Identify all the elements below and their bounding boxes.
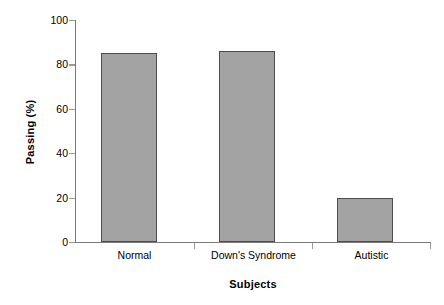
y-axis-line bbox=[75, 20, 76, 242]
x-axis-title: Subjects bbox=[75, 278, 431, 290]
y-tick-mark bbox=[69, 64, 75, 65]
y-tick-label: 20 bbox=[34, 193, 68, 203]
x-tick-label-autistic: Autistic bbox=[312, 249, 431, 261]
bar-chart: Passing (%) 100 80 60 40 20 0 Normal Dow… bbox=[0, 0, 444, 305]
y-tick-mark bbox=[69, 153, 75, 154]
y-tick-label: 40 bbox=[34, 148, 68, 158]
y-tick-label: 80 bbox=[34, 59, 68, 69]
y-tick-label: 0 bbox=[34, 237, 68, 247]
x-axis-line bbox=[75, 242, 431, 243]
bar-normal bbox=[101, 53, 157, 242]
x-tick-label-normal: Normal bbox=[75, 249, 194, 261]
y-axis-tick-labels: 100 80 60 40 20 0 bbox=[28, 0, 68, 305]
y-tick-mark bbox=[69, 198, 75, 199]
y-tick-mark bbox=[69, 20, 75, 21]
bar-downs-syndrome bbox=[219, 51, 275, 242]
x-tick-label-downs-syndrome: Down's Syndrome bbox=[194, 249, 313, 261]
bar-autistic bbox=[337, 198, 393, 242]
y-tick-mark bbox=[69, 109, 75, 110]
y-tick-label: 60 bbox=[34, 104, 68, 114]
y-tick-label: 100 bbox=[34, 15, 68, 25]
